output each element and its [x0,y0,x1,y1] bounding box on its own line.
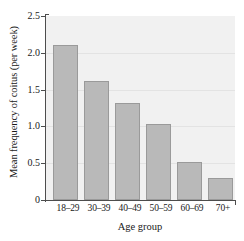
bar-50-59 [146,124,171,200]
bar-30-39 [84,81,109,200]
y-axis-line [45,14,46,202]
y-axis-top-cap [45,14,49,15]
y-tick-label-0: 0 [18,195,40,205]
bar-18-29 [53,45,78,200]
x-axis-tick-labels: 18–29 30–39 40–49 50–59 60–69 70+ [45,203,235,219]
plot-area [45,16,235,200]
y-tick-label-4: 2.0 [18,48,40,58]
bar-chart-figure: Mean frequency of coitus (per week) 0 0.… [0,0,244,241]
y-tick-label-1: 0.5 [18,158,40,168]
y-tick-label-2: 1.0 [18,121,40,131]
x-tick-label-70-plus: 70+ [197,203,244,213]
x-axis-line [43,200,236,201]
bar-60-69 [177,162,202,200]
bar-70-plus [208,178,233,200]
y-tick-label-5: 2.5 [18,11,40,21]
y-tick-label-3: 1.5 [18,85,40,95]
bar-40-49 [115,103,140,200]
y-axis-tick-labels: 0 0.5 1.0 1.5 2.0 2.5 [16,0,40,241]
x-axis-title: Age group [45,221,235,232]
